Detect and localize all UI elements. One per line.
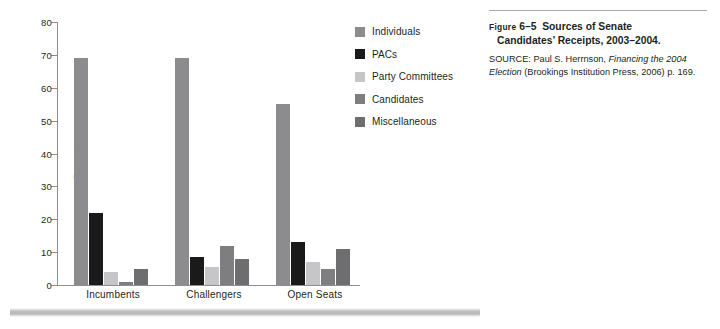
y-axis-tick-label: 60: [41, 82, 57, 93]
bar: [306, 262, 320, 285]
figure-chart-area: 01020304050607080 Percentage IncumbentsC…: [0, 0, 480, 300]
caption-title-line2: Candidates’ Receipts, 2003–2004.: [489, 34, 711, 48]
y-axis-line: [57, 22, 58, 286]
x-axis-tick-label: Incumbents: [86, 289, 140, 300]
bar: [190, 257, 204, 285]
legend-swatch-icon: [355, 117, 365, 127]
bar-group-bars: [276, 23, 354, 285]
bar: [119, 282, 133, 285]
x-axis-tick-label: Challengers: [186, 289, 242, 300]
legend-swatch-icon: [355, 72, 365, 82]
bar: [235, 259, 249, 285]
bar: [134, 269, 148, 285]
bar-group-bars: [175, 23, 253, 285]
y-axis-tick-label: 30: [41, 181, 57, 192]
legend-item-label: Party Committees: [372, 71, 453, 82]
caption-divider: [489, 10, 707, 11]
bar-group: Open Seats: [276, 23, 354, 285]
caption-title-line1: Sources of Senate: [542, 21, 632, 32]
legend-swatch-icon: [355, 49, 365, 59]
y-axis-tick-label: 50: [41, 115, 57, 126]
y-axis-tick-label: 0: [47, 280, 57, 291]
bar: [175, 58, 189, 285]
y-axis-tick-label: 20: [41, 214, 57, 225]
bar: [89, 213, 103, 285]
legend-swatch-icon: [355, 27, 365, 37]
caption-source: SOURCE: Paul S. Herrnson, Financing the …: [489, 53, 711, 78]
chart-legend: IndividualsPACsParty CommitteesCandidate…: [355, 26, 475, 139]
legend-item-label: Candidates: [372, 94, 424, 105]
legend-item-label: Individuals: [372, 26, 420, 37]
x-axis-line: [57, 285, 360, 286]
plot-area: 01020304050607080 Percentage IncumbentsC…: [57, 22, 360, 286]
bar: [205, 267, 219, 285]
y-axis-tick-label: 10: [41, 247, 57, 258]
legend-swatch-icon: [355, 94, 365, 104]
legend-item: Party Committees: [355, 71, 475, 82]
bar: [74, 58, 88, 285]
x-axis-tick-label: Open Seats: [288, 289, 343, 300]
legend-item: Individuals: [355, 26, 475, 37]
page-bottom-band: [10, 308, 480, 317]
bar-group: Incumbents: [74, 23, 152, 285]
bar: [291, 242, 305, 285]
bar: [276, 104, 290, 285]
source-italic-1: Financing the 2004: [608, 54, 686, 64]
y-axis-tick-label: 70: [41, 49, 57, 60]
y-axis-tick-label: 80: [41, 17, 57, 28]
legend-item-label: PACs: [372, 49, 397, 60]
source-suffix: (Brookings Institution Press, 2006) p. 1…: [522, 67, 696, 77]
source-italic-2: Election: [489, 67, 522, 77]
bar-group: Challengers: [175, 23, 253, 285]
bar: [104, 272, 118, 285]
bar-group-bars: [74, 23, 152, 285]
bar: [321, 269, 335, 285]
caption-figure-word: Figure: [489, 22, 516, 32]
legend-item: PACs: [355, 49, 475, 60]
figure-caption: Figure 6–5 Sources of Senate Candidates’…: [489, 0, 711, 78]
caption-figure-number: 6–5: [519, 21, 536, 32]
legend-item: Candidates: [355, 94, 475, 105]
caption-title: Figure 6–5 Sources of Senate Candidates’…: [489, 20, 711, 48]
legend-item-label: Miscellaneous: [372, 116, 437, 127]
source-prefix: SOURCE: Paul S. Herrnson,: [489, 54, 608, 64]
bar: [336, 249, 350, 285]
bar: [220, 246, 234, 285]
y-axis-tick-label: 40: [41, 148, 57, 159]
legend-item: Miscellaneous: [355, 116, 475, 127]
